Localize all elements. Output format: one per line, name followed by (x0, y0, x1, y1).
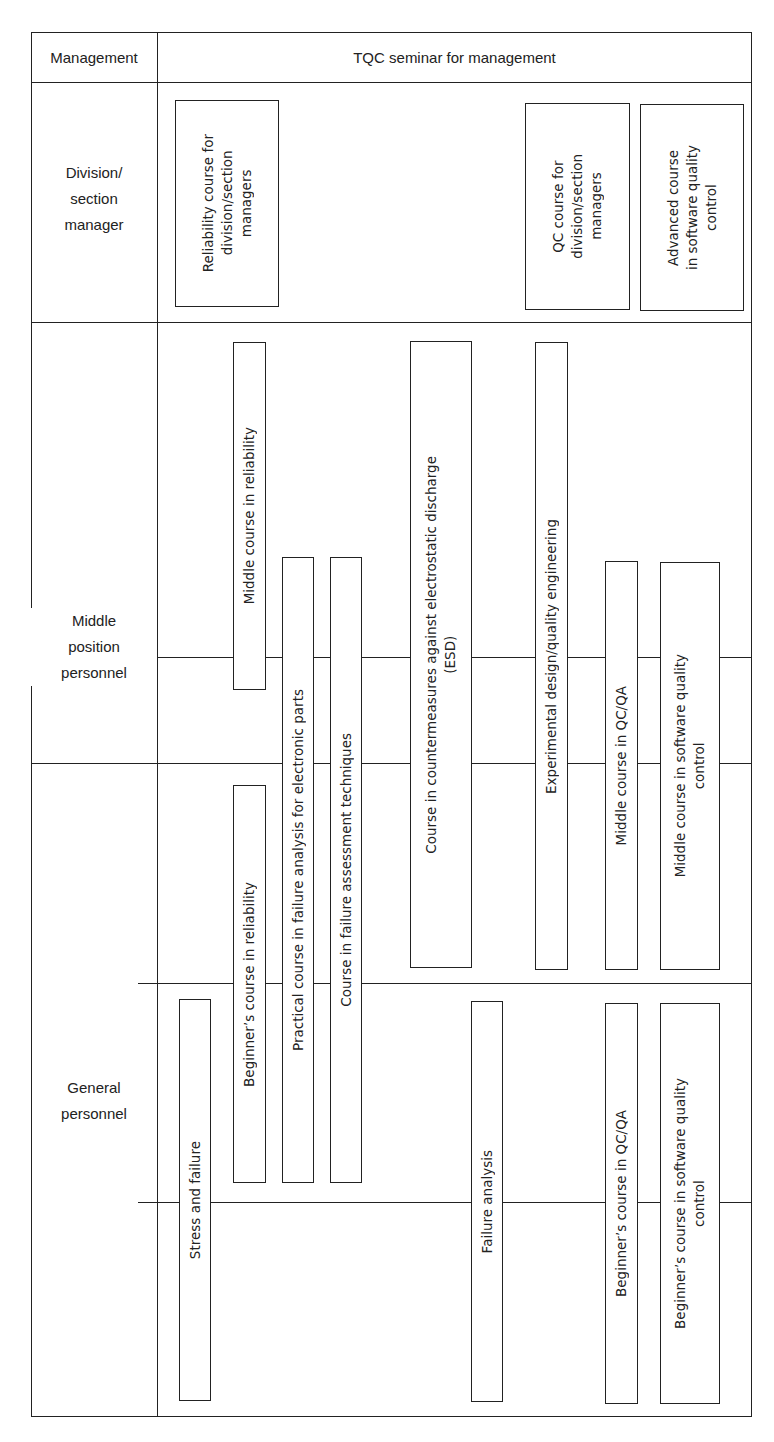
course-label: Middle course in reliability (240, 427, 259, 604)
course-beginner-qcqa: Beginner’s course in QC/QA (605, 1003, 638, 1404)
course-label: Practical course in failure analysis for… (289, 689, 308, 1051)
course-label: QC course for division/section managers (549, 154, 606, 259)
header-tqc-seminar: TQC seminar for management (157, 32, 752, 82)
course-label: Stress and failure (186, 1141, 205, 1259)
course-middle-software: Middle course in software quality contro… (660, 562, 720, 970)
course-middle-qcqa: Middle course in QC/QA (605, 561, 638, 970)
course-failure-assessment: Course in failure assessment techniques (330, 557, 362, 1183)
course-label: Course in failure assessment techniques (337, 733, 356, 1007)
header-divider (31, 82, 752, 83)
course-label: Reliability course for division/section … (199, 134, 256, 272)
course-stress-failure: Stress and failure (179, 999, 211, 1401)
course-esd: Course in countermeasures against electr… (410, 341, 472, 968)
course-beginner-software: Beginner’s course in software quality co… (660, 1003, 720, 1404)
row-divider-division (31, 322, 752, 323)
course-experimental-design: Experimental design/quality engineering (535, 342, 568, 970)
course-label: Middle course in software quality contro… (671, 654, 709, 877)
course-failure-analysis: Failure analysis (471, 1001, 503, 1402)
row-label-general: General personnel (31, 1075, 157, 1127)
course-label: Beginner’s course in software quality co… (671, 1078, 709, 1329)
header-management: Management (31, 32, 157, 82)
row-label-middle: Middle position personnel (31, 608, 157, 686)
course-label: Failure analysis (478, 1150, 497, 1253)
course-qc-division: QC course for division/section managers (525, 103, 630, 310)
course-practical-failure: Practical course in failure analysis for… (282, 557, 314, 1183)
course-middle-reliability: Middle course in reliability (233, 342, 266, 690)
level-line-general-top (138, 983, 752, 984)
course-label: Course in countermeasures against electr… (422, 456, 460, 854)
course-advanced-software: Advanced course in software quality cont… (640, 104, 744, 311)
course-label: Middle course in QC/QA (612, 686, 631, 845)
course-label: Beginner’s course in reliability (240, 882, 259, 1087)
course-reliability-division: Reliability course for division/section … (175, 100, 279, 307)
course-label: Experimental design/quality engineering (542, 519, 561, 794)
course-label: Beginner’s course in QC/QA (612, 1110, 631, 1297)
row-label-division: Division/ section manager (31, 160, 157, 238)
column-divider (157, 32, 158, 1417)
course-label: Advanced course in software quality cont… (664, 145, 721, 270)
course-beginner-reliability: Beginner’s course in reliability (233, 785, 266, 1183)
row-divider-middle (31, 763, 752, 764)
